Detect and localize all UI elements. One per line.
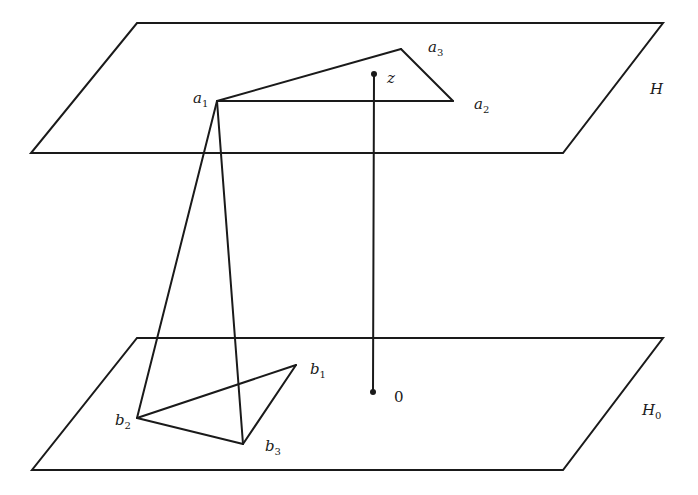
point-label-z: z xyxy=(386,69,395,87)
point-label-b1: b1 xyxy=(310,360,326,380)
two-planes-diagram: HH0a1a2a3b1b2b3z0 xyxy=(0,0,698,495)
point-label-a1: a1 xyxy=(193,89,208,109)
point-z-dot xyxy=(371,71,377,77)
edge-b3-b1 xyxy=(243,365,296,444)
edge-a2-a3 xyxy=(401,49,453,101)
point-label-o: 0 xyxy=(394,388,404,406)
point-label-b2: b2 xyxy=(115,411,131,431)
plane-h xyxy=(31,23,663,153)
point-label-a3: a3 xyxy=(428,38,443,58)
edge-z-o xyxy=(373,74,374,392)
plane-label-h0: H0 xyxy=(641,401,661,421)
point-o-dot xyxy=(370,389,376,395)
edge-b2-b3 xyxy=(137,418,243,444)
planes xyxy=(31,23,663,470)
plane-label-h: H xyxy=(649,80,664,98)
edges xyxy=(137,49,453,444)
plane-h0 xyxy=(32,338,663,470)
edge-b1-b2 xyxy=(137,365,296,418)
edge-a1-b2 xyxy=(137,101,217,418)
point-label-b3: b3 xyxy=(265,437,281,457)
point-label-a2: a2 xyxy=(474,95,489,115)
